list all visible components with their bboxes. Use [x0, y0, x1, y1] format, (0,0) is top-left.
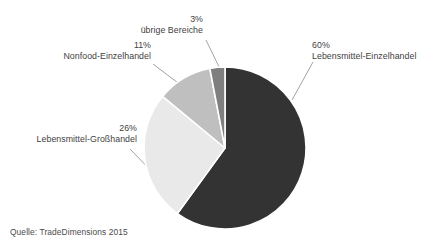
callout-nonfood-einzelhandel: 11% Nonfood-Einzelhandel: [0, 40, 151, 62]
pie-slices-group: [144, 67, 306, 229]
callout-label: Lebensmittel-Einzelhandel: [312, 51, 416, 62]
callout-label: Nonfood-Einzelhandel: [0, 51, 151, 62]
callout-lebensmittel-einzelhandel: 60% Lebensmittel-Einzelhandel: [312, 40, 416, 62]
callout-label: übrige Bereiche: [0, 25, 203, 36]
callout-percent: 60%: [312, 40, 416, 51]
callout-label: Lebensmittel-Großhandel: [0, 134, 137, 145]
callout-percent: 11%: [0, 40, 151, 51]
callout-lebensmittel-grosshandel: 26% Lebensmittel-Großhandel: [0, 123, 137, 145]
callout-percent: 26%: [0, 123, 137, 134]
callout-uebrige-bereiche: 3% übrige Bereiche: [0, 14, 203, 36]
leader-line-food-retail: [292, 62, 313, 100]
callout-percent: 3%: [0, 14, 203, 25]
source-note: Quelle: TradeDimensions 2015: [10, 227, 128, 237]
pie-chart-figure: 60% Lebensmittel-Einzelhandel 3% übrige …: [0, 0, 441, 251]
